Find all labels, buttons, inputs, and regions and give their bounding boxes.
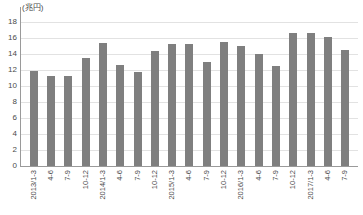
x-axis-tick: 2017/1-3 bbox=[302, 168, 319, 215]
x-axis-tick-label: 7-9 bbox=[65, 170, 73, 181]
bar[interactable] bbox=[47, 76, 55, 166]
x-axis-tick-label: 4-6 bbox=[47, 170, 55, 181]
bar[interactable] bbox=[185, 44, 193, 166]
x-axis-tick: 7-9 bbox=[267, 168, 284, 215]
x-axis-tick: 2015/1-3 bbox=[164, 168, 181, 215]
bar-slot bbox=[198, 22, 215, 166]
bar-series bbox=[21, 22, 358, 166]
bar[interactable] bbox=[99, 43, 107, 166]
bar-slot bbox=[146, 22, 163, 166]
bar-slot bbox=[164, 22, 181, 166]
x-axis-tick: 2014/1-3 bbox=[94, 168, 111, 215]
bar[interactable] bbox=[324, 37, 332, 166]
bar-slot bbox=[337, 22, 354, 166]
bar-slot bbox=[319, 22, 336, 166]
bar-slot bbox=[77, 22, 94, 166]
y-axis-tick-label: 16 bbox=[8, 34, 17, 42]
bar-chart: (兆円) 181614121086420 2013/1-34-67-910-12… bbox=[0, 0, 363, 215]
bar[interactable] bbox=[168, 44, 176, 166]
y-axis-tick-label: 2 bbox=[13, 146, 17, 154]
bar[interactable] bbox=[134, 72, 142, 166]
y-axis-tick-label: 10 bbox=[8, 82, 17, 90]
bar[interactable] bbox=[307, 33, 315, 166]
bar-slot bbox=[285, 22, 302, 166]
x-axis-tick: 10-12 bbox=[285, 168, 302, 215]
bar[interactable] bbox=[203, 62, 211, 166]
x-axis-tick-label: 7-9 bbox=[203, 170, 211, 181]
y-axis-tick-label: 8 bbox=[13, 98, 17, 106]
bar[interactable] bbox=[289, 33, 297, 166]
bar-slot bbox=[250, 22, 267, 166]
y-axis-tick-label: 6 bbox=[13, 114, 17, 122]
bar[interactable] bbox=[255, 54, 263, 166]
bar-slot bbox=[233, 22, 250, 166]
x-axis-tick-label: 2013/1-3 bbox=[30, 170, 38, 200]
bar-slot bbox=[94, 22, 111, 166]
bar[interactable] bbox=[237, 46, 245, 166]
x-axis-tick: 4-6 bbox=[181, 168, 198, 215]
x-axis-tick: 10-12 bbox=[146, 168, 163, 215]
y-axis-tick-label: 14 bbox=[8, 50, 17, 58]
bar-slot bbox=[112, 22, 129, 166]
bar[interactable] bbox=[220, 42, 228, 166]
x-axis-tick: 4-6 bbox=[319, 168, 336, 215]
y-axis-tick-label: 18 bbox=[8, 18, 17, 26]
x-axis-tick: 7-9 bbox=[337, 168, 354, 215]
bar-slot bbox=[129, 22, 146, 166]
bar-slot bbox=[42, 22, 59, 166]
bar[interactable] bbox=[272, 66, 280, 166]
bar[interactable] bbox=[116, 65, 124, 166]
x-axis-tick: 10-12 bbox=[215, 168, 232, 215]
x-axis-tick-label: 2017/1-3 bbox=[307, 170, 315, 200]
x-axis-tick-label: 7-9 bbox=[272, 170, 280, 181]
x-axis-tick: 7-9 bbox=[198, 168, 215, 215]
bar[interactable] bbox=[30, 71, 38, 166]
x-axis-tick-label: 10-12 bbox=[290, 170, 298, 189]
bar-slot bbox=[267, 22, 284, 166]
y-axis: 181614121086420 bbox=[0, 0, 20, 215]
x-axis-tick-label: 4-6 bbox=[116, 170, 124, 181]
x-axis-tick-label: 10-12 bbox=[220, 170, 228, 189]
x-axis-tick-label: 2015/1-3 bbox=[168, 170, 176, 200]
bar-slot bbox=[215, 22, 232, 166]
x-axis-tick: 4-6 bbox=[250, 168, 267, 215]
bar-slot bbox=[60, 22, 77, 166]
bar-slot bbox=[302, 22, 319, 166]
x-axis-tick-label: 10-12 bbox=[82, 170, 90, 189]
x-axis-tick-label: 4-6 bbox=[255, 170, 263, 181]
x-axis-tick: 10-12 bbox=[77, 168, 94, 215]
y-axis-tick-label: 4 bbox=[13, 130, 17, 138]
x-axis-tick-label: 2014/1-3 bbox=[99, 170, 107, 200]
y-axis-tick-label: 12 bbox=[8, 66, 17, 74]
x-axis-tick: 4-6 bbox=[42, 168, 59, 215]
x-axis-tick: 7-9 bbox=[129, 168, 146, 215]
y-axis-tick-label: 0 bbox=[13, 162, 17, 170]
x-axis-tick: 7-9 bbox=[60, 168, 77, 215]
bar[interactable] bbox=[151, 51, 159, 166]
bar[interactable] bbox=[82, 58, 90, 166]
x-axis-tick-label: 4-6 bbox=[324, 170, 332, 181]
x-axis-tick: 2013/1-3 bbox=[25, 168, 42, 215]
x-axis-tick-label: 2016/1-3 bbox=[238, 170, 246, 200]
x-axis: 2013/1-34-67-910-122014/1-34-67-910-1220… bbox=[21, 168, 358, 215]
x-axis-tick-label: 10-12 bbox=[151, 170, 159, 189]
x-axis-tick-label: 4-6 bbox=[186, 170, 194, 181]
x-axis-tick-label: 7-9 bbox=[342, 170, 350, 181]
x-axis-tick: 4-6 bbox=[112, 168, 129, 215]
x-axis-tick-label: 7-9 bbox=[134, 170, 142, 181]
bar[interactable] bbox=[341, 50, 349, 166]
bar[interactable] bbox=[64, 76, 72, 166]
bar-slot bbox=[25, 22, 42, 166]
bar-slot bbox=[181, 22, 198, 166]
x-axis-tick: 2016/1-3 bbox=[233, 168, 250, 215]
